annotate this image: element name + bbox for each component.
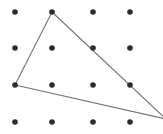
lattice-dot-r2c1 <box>12 45 18 51</box>
lattice-dot-r4c1 <box>12 119 18 125</box>
lattice-dot-r2c3 <box>90 45 96 51</box>
lattice-dot-r4c4 <box>127 119 133 125</box>
lattice-dot-r3c1 <box>12 82 18 88</box>
lattice-dot-r3c3 <box>90 82 96 88</box>
lattice-dot-r3c2 <box>49 82 55 88</box>
lattice-dot-r4c2 <box>49 119 55 125</box>
lattice-dot-r4c3 <box>90 119 96 125</box>
lattice-dot-r2c4 <box>127 45 133 51</box>
figure-canvas <box>0 0 163 134</box>
dot-grid-figure <box>0 0 163 134</box>
lattice-dot-r1c1 <box>12 9 18 15</box>
lattice-dot-r1c4 <box>127 9 133 15</box>
lattice-dot-r2c2 <box>49 45 55 51</box>
lattice-dot-r3c4 <box>127 82 133 88</box>
lattice-dot-r1c2 <box>49 9 55 15</box>
lattice-dot-r1c3 <box>90 9 96 15</box>
